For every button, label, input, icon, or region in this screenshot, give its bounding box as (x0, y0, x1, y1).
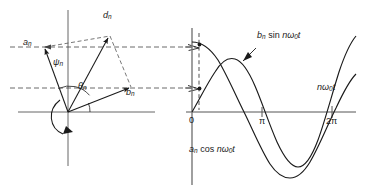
angle-label-psi-n: ψn (53, 58, 63, 68)
vector-label-a-n: an (23, 38, 32, 48)
x-tick-label-2pi: 2π (326, 117, 337, 126)
cos-curve-label: an cos nω0t (189, 145, 235, 155)
vector-label-d-n: dn (103, 11, 112, 21)
x-axis-label: nω0t (317, 83, 335, 93)
x-tick-label-0: 0 (189, 116, 194, 125)
projection-markers (198, 43, 202, 91)
sin-curve-label: bn sin nω0t (257, 31, 300, 41)
curve-a-cos (192, 42, 356, 178)
sin-label-leader-arrow (243, 48, 256, 61)
figure-root: an bn dn ψn θn bn sin nω0t an cos nω0t n… (0, 0, 365, 191)
angle-label-theta-n: θn (78, 82, 87, 92)
vector-label-b-n: bn (126, 88, 135, 98)
vector-d-n (68, 38, 108, 112)
counterclockwise-rotation-arrow-icon (51, 100, 73, 134)
angle-arc-theta-n (88, 103, 90, 112)
projection-connector-lines (10, 45, 199, 92)
figure-vector-layer (0, 0, 365, 191)
x-tick-label-pi: π (259, 117, 265, 126)
